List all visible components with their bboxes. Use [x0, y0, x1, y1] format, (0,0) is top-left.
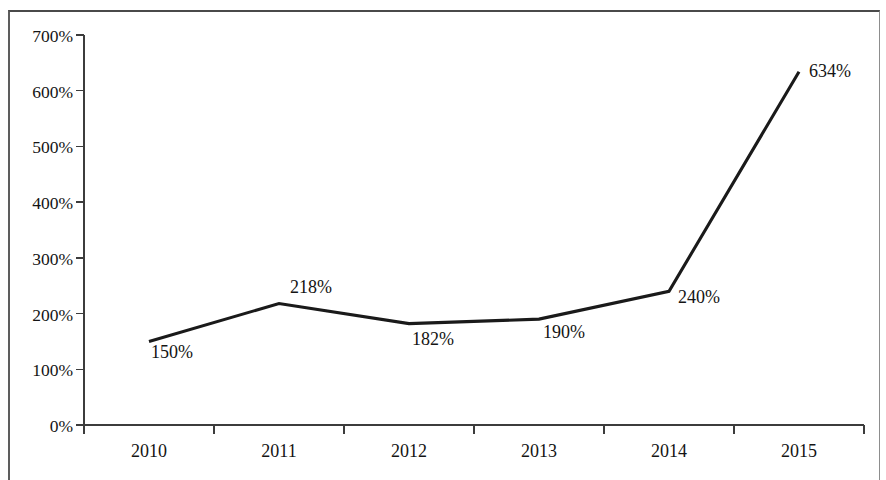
data-label-2012: 182%: [412, 329, 454, 349]
x-tick-label-2013: 2013: [521, 441, 557, 461]
data-label-2011: 218%: [290, 277, 332, 297]
data-label-2010: 150%: [151, 342, 193, 362]
y-axis-ticks: [76, 35, 84, 425]
y-tick-label-200: 200%: [32, 305, 73, 325]
x-axis-tick-labels: 2010 2011 2012 2013 2014 2015: [131, 441, 817, 461]
y-tick-label-300: 300%: [32, 249, 73, 269]
data-label-2015: 634%: [809, 61, 851, 81]
x-tick-label-2014: 2014: [651, 441, 687, 461]
y-tick-label-400: 400%: [32, 193, 73, 213]
data-point-labels: 150% 218% 182% 190% 240% 634%: [151, 61, 851, 363]
x-tick-label-2015: 2015: [781, 441, 817, 461]
x-tick-label-2010: 2010: [131, 441, 167, 461]
y-tick-label-0: 0%: [50, 416, 73, 436]
x-tick-label-2011: 2011: [261, 441, 296, 461]
data-label-2014: 240%: [678, 287, 720, 307]
y-tick-label-100: 100%: [32, 360, 73, 380]
x-tick-label-2012: 2012: [391, 441, 427, 461]
x-axis-ticks: [84, 425, 864, 434]
y-tick-label-500: 500%: [32, 137, 73, 157]
y-tick-label-600: 600%: [32, 82, 73, 102]
y-tick-label-700: 700%: [32, 26, 73, 46]
data-label-2013: 190%: [543, 322, 585, 342]
y-axis-tick-labels: 0% 100% 200% 300% 400% 500% 600% 700%: [32, 26, 73, 436]
